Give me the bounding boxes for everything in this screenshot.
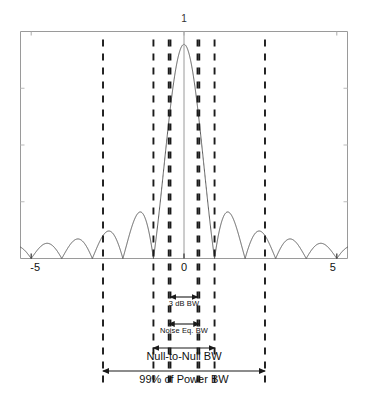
- sinc-bandwidth-diagram: [0, 0, 368, 397]
- x-axis-tick-label-zero: 0: [181, 262, 187, 273]
- peak-value-label: 1: [181, 14, 187, 24]
- label-3db-bandwidth: 3 dB BW: [169, 300, 199, 308]
- figure-canvas: 1 -5 0 5 3 dB BW Noise Eq. BW Null-to-Nu…: [0, 0, 368, 397]
- label-noise-equivalent-bandwidth: Noise Eq. BW: [160, 327, 208, 335]
- label-null-to-null-bandwidth: Null-to-Null BW: [146, 351, 221, 362]
- x-axis-tick-label-min: -5: [30, 262, 40, 273]
- x-axis-tick-label-max: 5: [330, 262, 336, 273]
- label-99-percent-power-bandwidth: 99% of Power BW: [139, 374, 228, 385]
